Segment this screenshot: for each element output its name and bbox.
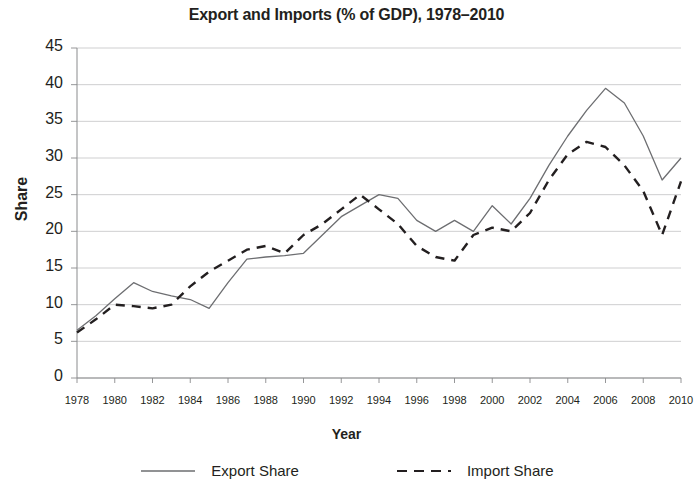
x-tick-label: 2008 [623, 394, 663, 406]
x-tick-label: 1996 [397, 394, 437, 406]
legend-label-export: Export Share [211, 462, 299, 479]
x-tick-label: 1978 [57, 394, 97, 406]
y-tick-label: 5 [29, 330, 63, 348]
y-tick-label: 10 [29, 294, 63, 312]
x-tick-label: 1998 [435, 394, 475, 406]
y-tick-label: 35 [29, 110, 63, 128]
y-tick-label: 40 [29, 74, 63, 92]
x-tick-label: 1990 [284, 394, 324, 406]
data-series [77, 88, 681, 332]
legend-entry-export: Export Share [139, 462, 299, 479]
axis-lines [77, 48, 681, 378]
y-tick-label: 30 [29, 147, 63, 165]
x-tick-label: 1992 [321, 394, 361, 406]
x-tick-label: 2010 [661, 394, 698, 406]
x-tick-label: 1988 [246, 394, 286, 406]
series-line-import [77, 142, 681, 333]
legend-label-import: Import Share [467, 462, 554, 479]
y-tick-label: 25 [29, 184, 63, 202]
x-tick-label: 2004 [548, 394, 588, 406]
y-tick-label: 20 [29, 220, 63, 238]
x-tick-label: 2002 [510, 394, 550, 406]
x-axis-title: Year [0, 426, 693, 442]
x-tick-label: 1986 [208, 394, 248, 406]
y-tick-label: 45 [29, 37, 63, 55]
dashed-line-swatch [395, 466, 453, 476]
y-tick-label: 0 [29, 367, 63, 385]
x-tick-label: 1984 [170, 394, 210, 406]
x-tick-label: 1982 [133, 394, 173, 406]
chart-legend: Export Share Import Share [0, 462, 693, 479]
x-tick-label: 1994 [359, 394, 399, 406]
x-tick-label: 2006 [586, 394, 626, 406]
x-tick-marks [77, 378, 681, 383]
x-tick-label: 1980 [95, 394, 135, 406]
legend-entry-import: Import Share [395, 462, 554, 479]
x-tick-label: 2000 [472, 394, 512, 406]
y-tick-label: 15 [29, 257, 63, 275]
solid-line-swatch [139, 466, 197, 476]
gridlines [77, 48, 681, 378]
y-tick-marks [71, 48, 77, 378]
